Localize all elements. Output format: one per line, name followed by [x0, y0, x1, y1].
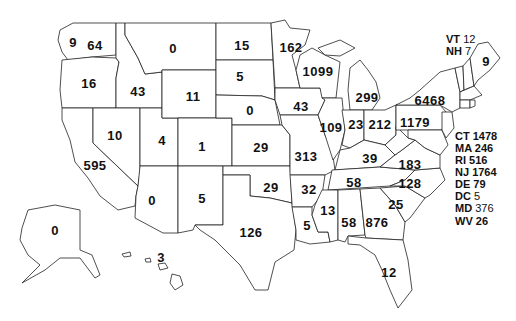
legend-abbr: VT [446, 33, 460, 45]
legend-value: 516 [469, 154, 487, 166]
legend-value: 7 [465, 45, 471, 57]
legend-value: 1478 [473, 130, 497, 142]
state-value-ga: 876 [365, 215, 388, 230]
state-value-pa: 1179 [400, 115, 430, 130]
state-value-nv: 10 [107, 128, 122, 143]
state-value-ny: 6468 [415, 93, 446, 108]
legend-abbr: NH [446, 45, 462, 57]
state-value-in: 23 [348, 117, 363, 132]
state-fl [348, 236, 412, 308]
state-value-id: 43 [130, 84, 145, 99]
state-value-wa-puget: 9 [69, 35, 77, 50]
legend-value: 12 [463, 33, 475, 45]
state-value-tn: 58 [346, 175, 361, 190]
state-ct [460, 100, 470, 108]
state-value-ia: 43 [293, 99, 308, 114]
state-value-fl: 12 [381, 265, 396, 280]
state-value-mn: 162 [279, 40, 302, 55]
legend-abbr: RI [455, 154, 466, 166]
state-value-sc: 25 [388, 197, 403, 212]
legend-abbr: DE [455, 178, 470, 190]
legend-value: 26 [476, 215, 488, 227]
state-value-mi: 299 [355, 90, 378, 105]
legend-value: 79 [473, 178, 485, 190]
state-value-wi: 1099 [303, 64, 334, 79]
legend-abbr: NJ [455, 166, 469, 178]
state-value-wy: 11 [186, 89, 201, 104]
state-value-nm: 5 [198, 191, 206, 206]
legend-dc: DC 5 [455, 190, 480, 202]
legend-abbr: CT [455, 130, 470, 142]
state-hi [122, 252, 183, 290]
legend-abbr: MD [455, 202, 472, 214]
state-value-il: 109 [319, 120, 342, 135]
state-value-co: 1 [198, 139, 206, 154]
state-value-al: 58 [341, 215, 356, 230]
state-value-nd: 15 [234, 38, 249, 53]
legend-nj: NJ 1764 [455, 166, 497, 178]
legend-value: 246 [475, 142, 493, 154]
state-value-sd: 5 [236, 69, 244, 84]
state-az [135, 166, 178, 233]
legend-wv: WV 26 [455, 215, 488, 227]
state-value-ky: 39 [362, 151, 377, 166]
legend-value: 5 [474, 190, 480, 202]
legend-ct: CT 1478 [455, 130, 497, 142]
state-nj [442, 112, 454, 138]
state-value-ut: 4 [158, 133, 166, 148]
state-value-la: 5 [303, 218, 311, 233]
state-value-ak: 0 [51, 223, 59, 238]
legend-value: 1764 [472, 166, 496, 178]
state-value-az: 0 [148, 193, 156, 208]
legend-de: DE 79 [455, 178, 486, 190]
state-value-nc: 128 [398, 176, 421, 191]
state-value-mt: 0 [169, 41, 177, 56]
state-value-mo: 313 [294, 149, 317, 164]
state-value-ar: 32 [301, 182, 316, 197]
legend-abbr: WV [455, 215, 473, 227]
legend-ma: MA 246 [455, 142, 493, 154]
legend-abbr: DC [455, 190, 471, 202]
state-value-ne: 0 [246, 103, 254, 118]
state-value-hi: 3 [157, 250, 165, 265]
state-value-ca: 595 [83, 158, 106, 173]
state-ri [470, 100, 475, 108]
state-value-wa: 64 [87, 38, 102, 53]
state-value-oh: 212 [368, 117, 391, 132]
legend-ri: RI 516 [455, 154, 487, 166]
state-ak [20, 205, 100, 283]
state-value-tx: 126 [239, 225, 262, 240]
state-value-me: 9 [482, 54, 490, 69]
legend-value: 376 [475, 202, 493, 214]
us-map-outline [0, 0, 516, 321]
legend-vt: VT 12 [446, 33, 475, 45]
state-value-va: 183 [398, 157, 421, 172]
legend-nh: NH 7 [446, 45, 471, 57]
legend-md: MD 376 [455, 202, 494, 214]
state-sd [216, 60, 275, 100]
state-value-or: 16 [81, 76, 96, 91]
state-value-ms: 13 [320, 203, 335, 218]
legend-abbr: MA [455, 142, 472, 154]
state-value-ok: 29 [263, 180, 278, 195]
state-value-ks: 29 [253, 140, 268, 155]
